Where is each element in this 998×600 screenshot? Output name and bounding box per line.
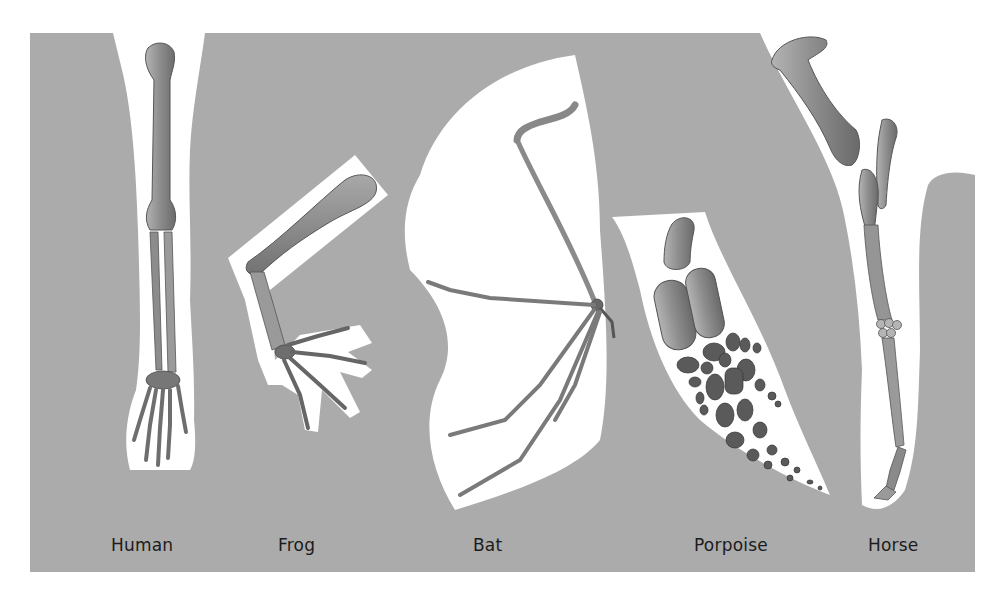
label-frog: Frog xyxy=(278,535,315,555)
forelimb-comparison-figure: Human Frog Bat Porpoise Horse xyxy=(0,0,998,600)
label-human: Human xyxy=(111,535,173,555)
figure-illustration xyxy=(0,0,998,600)
label-porpoise: Porpoise xyxy=(694,535,768,555)
label-bat: Bat xyxy=(473,535,502,555)
label-horse: Horse xyxy=(868,535,919,555)
